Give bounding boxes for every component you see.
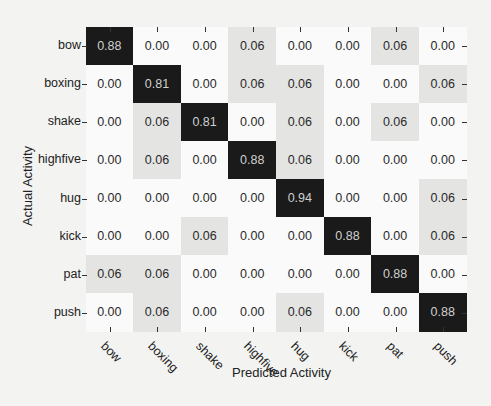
- matrix-cell: 0.06: [133, 255, 181, 293]
- y-tick-mark: [462, 199, 467, 200]
- x-tick-label: boxing: [146, 339, 182, 375]
- x-tick-mark: [396, 327, 397, 332]
- y-axis-label: Actual Activity: [20, 146, 35, 226]
- x-tick-label: hug: [288, 339, 313, 364]
- matrix-cell: 0.06: [133, 141, 181, 179]
- matrix-cell: 0.00: [371, 141, 419, 179]
- matrix-cell: 0.06: [419, 217, 467, 255]
- y-tick-label: boxing: [44, 76, 81, 90]
- matrix-cell: 0.00: [419, 255, 467, 293]
- matrix-cell: 0.06: [86, 255, 134, 293]
- x-tick-mark: [110, 27, 111, 32]
- y-tick-mark: [462, 46, 467, 47]
- matrix-cell: 0.06: [228, 27, 276, 65]
- matrix-cell: 0.00: [419, 27, 467, 65]
- matrix-cell: 0.00: [276, 217, 324, 255]
- matrix-cell: 0.00: [133, 27, 181, 65]
- matrix-cell: 0.00: [181, 27, 229, 65]
- x-tick-mark: [348, 327, 349, 332]
- y-tick-mark: [82, 275, 87, 276]
- confusion-matrix-figure: 0.880.000.000.060.000.000.060.000.000.81…: [0, 0, 491, 406]
- matrix-cell: 0.00: [371, 293, 419, 331]
- matrix-cell: 0.06: [228, 65, 276, 103]
- x-tick-mark: [348, 27, 349, 32]
- matrix-cell: 0.00: [228, 293, 276, 331]
- matrix-cell: 0.00: [228, 103, 276, 141]
- x-tick-mark: [443, 27, 444, 32]
- y-tick-label: kick: [59, 229, 81, 243]
- x-tick-label: bow: [98, 339, 124, 365]
- matrix-cell: 0.06: [133, 103, 181, 141]
- x-tick-mark: [110, 327, 111, 332]
- x-axis-label: Predicted Activity: [232, 365, 331, 380]
- y-tick-label: shake: [48, 114, 81, 128]
- matrix-cell: 0.00: [324, 255, 372, 293]
- y-tick-mark: [462, 160, 467, 161]
- x-tick-label: kick: [336, 339, 361, 364]
- matrix-cell: 0.06: [371, 27, 419, 65]
- matrix-cell: 0.00: [181, 293, 229, 331]
- x-tick-mark: [157, 327, 158, 332]
- matrix-cell: 0.00: [276, 27, 324, 65]
- matrix-cell: 0.88: [419, 293, 467, 331]
- matrix-cell: 0.00: [181, 255, 229, 293]
- matrix-cell: 0.00: [276, 255, 324, 293]
- matrix-cell: 0.94: [276, 179, 324, 217]
- x-tick-mark: [157, 27, 158, 32]
- matrix-cell: 0.06: [371, 103, 419, 141]
- matrix-cell: 0.00: [228, 217, 276, 255]
- matrix-cell: 0.88: [371, 255, 419, 293]
- y-tick-mark: [462, 122, 467, 123]
- matrix-cell: 0.81: [133, 65, 181, 103]
- matrix-cell: 0.00: [419, 141, 467, 179]
- matrix-cell: 0.00: [324, 293, 372, 331]
- matrix-cell: 0.06: [419, 65, 467, 103]
- matrix-cell: 0.00: [228, 179, 276, 217]
- matrix-cell: 0.00: [324, 141, 372, 179]
- x-tick-label: push: [431, 339, 460, 368]
- matrix-cell: 0.00: [86, 65, 134, 103]
- y-tick-mark: [82, 46, 87, 47]
- matrix-cell: 0.06: [276, 141, 324, 179]
- x-tick-mark: [300, 27, 301, 32]
- matrix-cell: 0.00: [86, 179, 134, 217]
- matrix-cell: 0.06: [276, 65, 324, 103]
- matrix-cell: 0.06: [181, 217, 229, 255]
- y-tick-mark: [462, 84, 467, 85]
- matrix-cell: 0.00: [133, 217, 181, 255]
- matrix-cell: 0.00: [371, 179, 419, 217]
- matrix-cell: 0.88: [86, 27, 134, 65]
- x-tick-mark: [205, 27, 206, 32]
- y-tick-label: pat: [64, 267, 81, 281]
- matrix-cell: 0.00: [181, 141, 229, 179]
- y-tick-label: hug: [60, 191, 81, 205]
- y-tick-mark: [82, 313, 87, 314]
- matrix-cell: 0.00: [133, 179, 181, 217]
- matrix-cell: 0.00: [419, 103, 467, 141]
- matrix-cell: 0.00: [371, 65, 419, 103]
- matrix-cell: 0.88: [228, 141, 276, 179]
- y-tick-mark: [82, 122, 87, 123]
- matrix-cell: 0.00: [86, 293, 134, 331]
- matrix-cell: 0.06: [133, 293, 181, 331]
- matrix-cell: 0.00: [181, 65, 229, 103]
- y-tick-mark: [82, 160, 87, 161]
- matrix-cell: 0.00: [371, 217, 419, 255]
- matrix-cell: 0.88: [324, 217, 372, 255]
- matrix-cell: 0.00: [181, 179, 229, 217]
- y-tick-mark: [82, 84, 87, 85]
- x-tick-mark: [300, 327, 301, 332]
- y-tick-label: push: [54, 305, 81, 319]
- y-tick-mark: [462, 275, 467, 276]
- y-tick-mark: [462, 313, 467, 314]
- x-tick-mark: [443, 327, 444, 332]
- y-tick-mark: [82, 199, 87, 200]
- y-tick-label: highfive: [38, 152, 81, 166]
- matrix-cell: 0.00: [324, 179, 372, 217]
- matrix-cell: 0.00: [86, 103, 134, 141]
- matrix-cell: 0.06: [276, 103, 324, 141]
- matrix-cell: 0.06: [276, 293, 324, 331]
- y-tick-mark: [462, 237, 467, 238]
- x-tick-label: pat: [384, 339, 406, 361]
- matrix-cell: 0.00: [228, 255, 276, 293]
